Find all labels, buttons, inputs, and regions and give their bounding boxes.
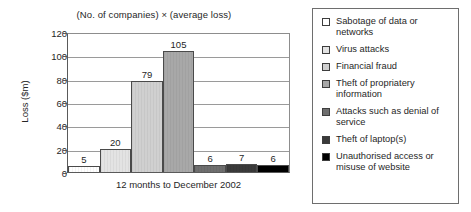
legend-label: Theft of propriatery information	[336, 78, 453, 100]
chart-area: (No. of companies) × (average loss) Loss…	[0, 0, 308, 212]
legend-label: Unauthorised access or misuse of website	[336, 151, 453, 173]
bar: 79	[131, 81, 163, 172]
bar: 6	[194, 165, 226, 172]
legend-swatch	[322, 63, 330, 71]
legend-label: Financial fraud	[336, 61, 397, 72]
bar: 5	[68, 166, 100, 172]
bar: 6	[257, 165, 289, 172]
legend-item: Theft of laptop(s)	[322, 134, 453, 145]
legend: Sabotage of data or networksVirus attack…	[312, 8, 459, 204]
legend-swatch	[322, 18, 330, 26]
y-axis-title: Loss ($m)	[19, 62, 30, 142]
legend-item: Attacks such as denial of service	[322, 106, 453, 128]
legend-item: Unauthorised access or misuse of website	[322, 151, 453, 173]
legend-swatch	[322, 136, 330, 144]
x-axis-label: 12 months to December 2002	[67, 179, 290, 190]
bar-slot: 6	[257, 34, 289, 172]
bar-value-label: 105	[171, 39, 187, 50]
bar-slot: 20	[100, 34, 132, 172]
legend-item: Virus attacks	[322, 44, 453, 55]
legend-label: Sabotage of data or networks	[336, 16, 453, 38]
chart-title: (No. of companies) × (average loss)	[0, 9, 308, 20]
bar-value-label: 5	[81, 154, 86, 165]
bar: 20	[100, 149, 132, 172]
y-axis: 120100806040200	[30, 33, 67, 173]
legend-swatch	[322, 108, 330, 116]
bar-slot: 79	[131, 34, 163, 172]
legend-swatch	[322, 46, 330, 54]
legend-item: Theft of propriatery information	[322, 78, 453, 100]
plot-area: 52079105676	[67, 33, 290, 173]
legend-item: Sabotage of data or networks	[322, 16, 453, 38]
bar-value-label: 20	[110, 137, 121, 148]
bar-value-label: 79	[142, 69, 153, 80]
bar-slot: 6	[194, 34, 226, 172]
legend-swatch	[322, 80, 330, 88]
legend-label: Theft of laptop(s)	[336, 134, 406, 145]
bar-value-label: 6	[271, 153, 276, 164]
bar-slot: 105	[163, 34, 195, 172]
bar: 7	[226, 164, 258, 172]
y-tick-mark	[63, 173, 67, 174]
legend-label: Attacks such as denial of service	[336, 106, 453, 128]
bar: 105	[163, 51, 195, 172]
bar-slot: 5	[68, 34, 100, 172]
bar-series: 52079105676	[68, 34, 289, 172]
legend-label: Virus attacks	[336, 44, 389, 55]
bar-chart-figure: (No. of companies) × (average loss) Loss…	[0, 0, 471, 212]
legend-item: Financial fraud	[322, 61, 453, 72]
bar-value-label: 7	[239, 152, 244, 163]
bar-slot: 7	[226, 34, 258, 172]
bar-value-label: 6	[207, 153, 212, 164]
legend-swatch	[322, 153, 330, 161]
